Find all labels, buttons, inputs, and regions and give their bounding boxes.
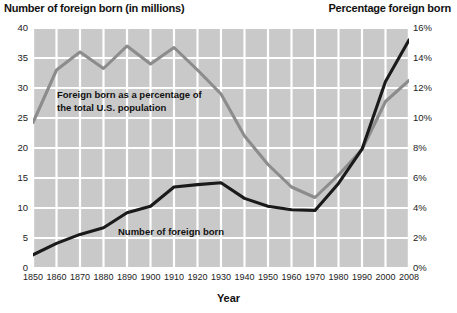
- x-axis-tick-1940: 1940: [232, 272, 258, 282]
- left-axis-tick-10: 10: [0, 203, 28, 213]
- x-axis-tick-1960: 1960: [279, 272, 305, 282]
- left-axis-tick-40: 40: [0, 23, 28, 33]
- left-axis-tick-35: 35: [0, 53, 28, 63]
- x-axis-tick-1950: 1950: [255, 272, 281, 282]
- left-axis-tick-20: 20: [0, 143, 28, 153]
- left-axis-tick-5: 5: [0, 233, 28, 243]
- x-axis-tick-1860: 1860: [44, 272, 70, 282]
- right-axis-title: Percentage foreign born: [328, 2, 451, 14]
- x-axis-title: Year: [0, 292, 457, 304]
- x-axis-tick-1900: 1900: [138, 272, 164, 282]
- right-axis-tick-12pct: 12%: [413, 83, 432, 93]
- x-axis-tick-1870: 1870: [67, 272, 93, 282]
- right-axis-tick-4pct: 4%: [413, 203, 427, 213]
- right-axis-tick-8pct: 8%: [413, 143, 427, 153]
- percentage-line-annotation-line1: Foreign born as a percentage of: [57, 89, 202, 102]
- x-axis-tick-1990: 1990: [349, 272, 375, 282]
- x-axis-tick-1910: 1910: [161, 272, 187, 282]
- right-axis-tick-16pct: 16%: [413, 23, 432, 33]
- x-axis-tick-1930: 1930: [208, 272, 234, 282]
- x-axis-tick-1920: 1920: [185, 272, 211, 282]
- x-axis-tick-1890: 1890: [114, 272, 140, 282]
- x-axis-tick-2008: 2008: [396, 272, 422, 282]
- percentage-line-annotation: Foreign born as a percentage of the tota…: [57, 89, 202, 115]
- right-axis-tick-10pct: 10%: [413, 113, 432, 123]
- right-axis-tick-6pct: 6%: [413, 173, 427, 183]
- percentage-line-annotation-line2: the total U.S. population: [57, 102, 202, 115]
- right-axis-tick-14pct: 14%: [413, 53, 432, 63]
- x-axis-tick-1970: 1970: [302, 272, 328, 282]
- x-axis-tick-1980: 1980: [326, 272, 352, 282]
- chart-container: Number of foreign born (in millions) Per…: [0, 0, 457, 313]
- x-axis-tick-1850: 1850: [20, 272, 46, 282]
- left-axis-tick-25: 25: [0, 113, 28, 123]
- x-axis-tick-2000: 2000: [373, 272, 399, 282]
- x-axis-tick-1880: 1880: [91, 272, 117, 282]
- right-axis-tick-2pct: 2%: [413, 233, 427, 243]
- left-axis-tick-15: 15: [0, 173, 28, 183]
- left-axis-tick-30: 30: [0, 83, 28, 93]
- number-line-annotation: Number of foreign born: [118, 226, 224, 239]
- left-axis-title: Number of foreign born (in millions): [4, 2, 184, 14]
